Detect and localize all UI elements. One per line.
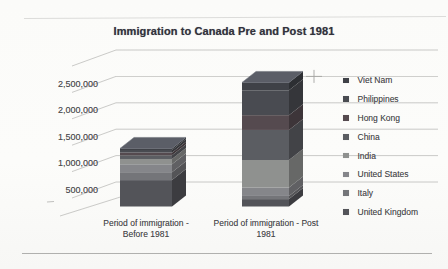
bar-segment-china [242,130,289,160]
x-axis-label-line: Period of immigration - Post [186,218,346,229]
legend-label: Viet Nam [358,75,393,85]
y-axis-tick-label: 2,000,000 [28,105,98,115]
legend-item-united-states: United States [343,165,418,184]
legend-item-italy: Italy [343,184,418,203]
y-axis-tick-label: 2,500,000 [28,79,98,89]
legend-label: India [358,151,376,161]
gridline-depth-stub [72,50,116,66]
legend-item-philippines: Philippines [343,90,418,109]
bar-segment-hong-kong [120,153,172,156]
bar-segment-united-kingdom [242,199,289,206]
chart-legend: Viet NamPhilippinesHong KongChinaIndiaUn… [343,71,418,221]
legend-item-india: India [343,146,418,165]
legend-item-hong-kong: Hong Kong [343,109,418,128]
legend-label: Hong Kong [358,113,401,123]
legend-swatch-philippines [343,96,349,102]
bar-segment-china [120,155,172,159]
legend-swatch-italy [343,190,349,196]
legend-swatch-hong-kong [343,115,349,121]
axis-zero-mark-smudge [47,202,54,203]
legend-label: United States [358,169,409,179]
bar-segment-italy [242,196,289,199]
x-axis-category-post-1981: Period of immigration - Post1981 [186,218,346,240]
y-axis-tick-label: 500,000 [28,185,98,195]
legend-label: United Kingdom [358,207,418,217]
floor-axis-diagonal [60,197,122,217]
bar-segment-philippines [242,90,289,115]
bar-segment-india [242,160,289,187]
bar-segment-philippines [120,150,172,153]
bar-segment-united-states [120,164,172,172]
legend-swatch-india [343,153,349,159]
y-axis-tick-label: 1,000,000 [28,158,98,168]
legend-label: China [358,132,380,142]
legend-label: Philippines [358,94,399,104]
legend-label: Italy [358,188,374,198]
y-axis-tick-label: 1,500,000 [28,132,98,142]
bar-segment-hong-kong [242,115,289,130]
legend-item-china: China [343,127,418,146]
bar-segment-viet-nam [242,82,289,90]
legend-swatch-united-kingdom [343,209,349,215]
bar-segment-united-states [242,187,289,195]
bar-segment-italy [120,172,172,180]
legend-swatch-viet-nam [343,78,349,84]
legend-swatch-united-states [343,172,349,178]
bar-segment-india [120,159,172,164]
bar-segment-united-kingdom [120,180,172,206]
legend-swatch-china [343,134,349,140]
x-axis-label-line: 1981 [186,229,346,240]
legend-item-united-kingdom: United Kingdom [343,203,418,222]
legend-item-viet-nam: Viet Nam [343,71,418,90]
